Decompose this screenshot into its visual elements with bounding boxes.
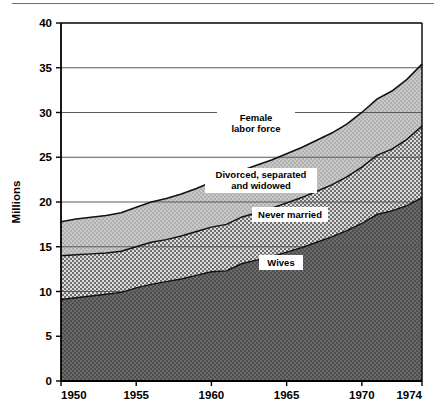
annotation-divorced-line2: and widowed <box>231 180 291 191</box>
x-tick-label-1960: 1960 <box>199 389 225 401</box>
annotation-never-married-text: Never married <box>258 209 322 220</box>
y-tick-label-15: 15 <box>39 241 52 253</box>
stacked-area-chart: 0510152025303540 19501955196019651970197… <box>0 0 446 414</box>
x-tick-label-1974: 1974 <box>396 389 422 401</box>
x-tick-label-1955: 1955 <box>123 389 149 401</box>
y-tick-label-35: 35 <box>39 62 52 74</box>
annotation-female-labor-force-line2: labor force <box>231 123 280 134</box>
x-tick-label-1950: 1950 <box>61 389 87 401</box>
x-axis-ticks: 195019551960196519701974 <box>61 381 423 401</box>
annotation-divorced-separated-widowed: Divorced, separated and widowed <box>205 168 317 193</box>
y-tick-label-5: 5 <box>46 330 53 342</box>
x-tick-label-1965: 1965 <box>274 389 300 401</box>
y-tick-label-10: 10 <box>39 286 52 298</box>
annotation-female-labor-force-line1: Female <box>240 112 273 123</box>
y-axis-ticks: 0510152025303540 <box>39 17 61 387</box>
annotation-never-married: Never married <box>252 207 328 222</box>
y-axis-title: Millions <box>10 181 22 224</box>
annotation-wives: Wives <box>259 255 303 270</box>
y-tick-label-25: 25 <box>39 151 52 163</box>
y-tick-label-30: 30 <box>39 107 52 119</box>
x-tick-label-1970: 1970 <box>349 389 375 401</box>
annotation-wives-text: Wives <box>267 257 294 268</box>
annotation-female-labor-force: Female labor force <box>217 111 295 136</box>
y-tick-label-20: 20 <box>39 196 52 208</box>
y-tick-label-40: 40 <box>39 17 52 29</box>
annotation-divorced-line1: Divorced, separated <box>216 169 307 180</box>
chart-figure: 0510152025303540 19501955196019651970197… <box>0 0 446 414</box>
y-tick-label-0: 0 <box>46 375 52 387</box>
